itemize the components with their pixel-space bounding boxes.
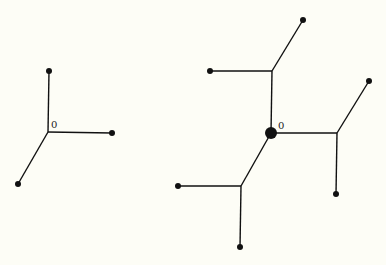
- origin-node: [265, 127, 277, 139]
- edge: [48, 71, 49, 132]
- leaf-node: [15, 181, 21, 187]
- leaf-node: [46, 68, 52, 74]
- leaf-node: [175, 183, 181, 189]
- right-tree: 0: [175, 17, 372, 250]
- edge: [272, 20, 303, 71]
- edge: [18, 132, 48, 184]
- origin-label: 0: [278, 120, 284, 131]
- edge: [241, 133, 271, 186]
- edge: [337, 81, 369, 133]
- leaf-node: [333, 191, 339, 197]
- leaf-node: [207, 68, 213, 74]
- edge: [271, 71, 272, 133]
- origin-label: 0: [51, 119, 57, 130]
- leaf-node: [237, 244, 243, 250]
- tree-diagram: 0 0: [0, 0, 386, 265]
- left-tree: 0: [15, 68, 115, 187]
- leaf-node: [300, 17, 306, 23]
- edge: [240, 186, 241, 247]
- leaf-node: [366, 78, 372, 84]
- edge: [48, 132, 112, 133]
- edge: [336, 133, 337, 194]
- leaf-node: [109, 130, 115, 136]
